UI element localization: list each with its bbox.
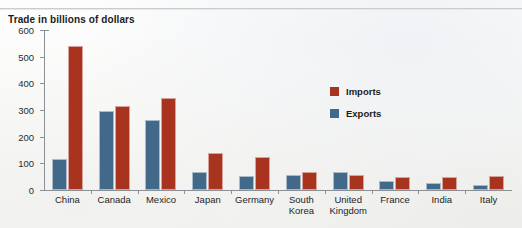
bar-exports[interactable] <box>473 185 488 190</box>
bar-imports[interactable] <box>255 157 270 190</box>
x-category-label: United Kingdom <box>325 194 372 216</box>
bar-imports[interactable] <box>302 172 317 190</box>
legend-label-exports: Exports <box>346 108 381 119</box>
x-category-label: Germany <box>231 194 278 205</box>
y-tick-label-0: 0 <box>29 185 34 196</box>
exports-swatch-icon <box>330 109 339 118</box>
x-category-label: India <box>418 194 465 205</box>
bar-imports[interactable] <box>489 176 504 190</box>
bar-exports[interactable] <box>192 172 207 190</box>
x-category-label: France <box>372 194 419 205</box>
bar-exports[interactable] <box>99 111 114 190</box>
bar-exports[interactable] <box>379 181 394 190</box>
legend-label-imports: Imports <box>346 86 381 97</box>
bar-group <box>465 30 512 190</box>
legend-item-exports[interactable]: Exports <box>330 108 381 119</box>
x-category-label: Mexico <box>138 194 185 205</box>
bar-exports[interactable] <box>239 176 254 190</box>
bar-imports[interactable] <box>208 153 223 190</box>
x-category-label: Italy <box>465 194 512 205</box>
y-tick-label-400: 400 <box>18 78 34 89</box>
bar-imports[interactable] <box>115 106 130 190</box>
x-category-label: Canada <box>91 194 138 205</box>
bar-imports[interactable] <box>442 177 457 190</box>
bar-exports[interactable] <box>52 159 67 190</box>
bar-group <box>184 30 231 190</box>
bar-exports[interactable] <box>286 175 301 190</box>
plot-area: 0100200300400500600 ChinaCanadaMexicoJap… <box>44 30 512 190</box>
bar-group <box>231 30 278 190</box>
imports-swatch-icon <box>330 87 339 96</box>
bar-group <box>44 30 91 190</box>
bar-exports[interactable] <box>145 120 160 190</box>
bar-imports[interactable] <box>349 175 364 190</box>
x-category-label: Japan <box>184 194 231 205</box>
bar-exports[interactable] <box>333 172 348 190</box>
top-divider-rule-shadow <box>0 9 522 10</box>
bar-imports[interactable] <box>395 177 410 190</box>
chart-page: Trade in billions of dollars 01002003004… <box>0 0 522 228</box>
y-tick-label-300: 300 <box>18 105 34 116</box>
y-tick-label-500: 500 <box>18 51 34 62</box>
bar-imports[interactable] <box>161 98 176 190</box>
bar-imports[interactable] <box>68 46 83 190</box>
x-category-label: South Korea <box>278 194 325 216</box>
bar-group <box>91 30 138 190</box>
y-tick-label-100: 100 <box>18 158 34 169</box>
x-category-label: China <box>44 194 91 205</box>
y-tick-label-200: 200 <box>18 131 34 142</box>
y-tick-label-600: 600 <box>18 25 34 36</box>
chart-title: Trade in billions of dollars <box>8 14 135 25</box>
chart-legend: Imports Exports <box>330 86 381 130</box>
bar-exports[interactable] <box>426 183 441 190</box>
bar-group <box>278 30 325 190</box>
bar-group <box>418 30 465 190</box>
bar-group <box>138 30 185 190</box>
legend-item-imports[interactable]: Imports <box>330 86 381 97</box>
